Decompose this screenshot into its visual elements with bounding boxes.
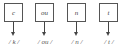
arrow-head-icon — [106, 32, 110, 36]
phoneme-label: / t / — [91, 38, 122, 46]
mapping-unit-c: c / k / — [2, 0, 26, 47]
mapping-unit-ou: ou / ou / — [33, 0, 57, 47]
grapheme-box: n — [67, 3, 86, 22]
grapheme-box: t — [99, 3, 118, 22]
arrow-head-icon — [74, 32, 78, 36]
arrow-head-icon — [11, 32, 15, 36]
arrow-head-icon — [42, 32, 46, 36]
mapping-unit-n: n / n / — [65, 0, 89, 47]
mapping-unit-t: t / t / — [97, 0, 121, 47]
phoneme-label: / n / — [59, 38, 95, 46]
phoneme-label: / ou / — [27, 38, 63, 46]
grapheme-box: c — [4, 3, 23, 22]
grapheme-box: ou — [35, 3, 54, 22]
